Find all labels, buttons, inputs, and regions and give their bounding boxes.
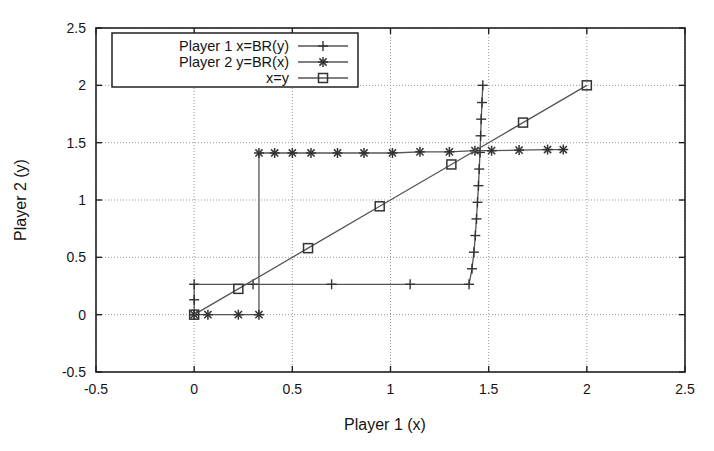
marker-asterisk: [387, 148, 397, 158]
marker-asterisk: [332, 148, 342, 158]
y-tick-label: -0.5: [62, 364, 86, 380]
best-response-plot: -0.500.511.522.5 -0.500.511.522.5 Player…: [0, 0, 714, 451]
x-tick-label: 2.5: [675, 381, 695, 397]
marker-asterisk: [543, 145, 553, 155]
y-tick-label: 1: [78, 192, 86, 208]
x-axis-label: Player 1 (x): [344, 416, 426, 433]
marker-asterisk: [558, 145, 568, 155]
legend-label-0: Player 1 x=BR(y): [179, 38, 289, 54]
x-tick-label: 1.5: [479, 381, 499, 397]
marker-asterisk: [254, 310, 264, 320]
marker-asterisk: [254, 148, 264, 158]
marker-asterisk: [306, 148, 316, 158]
x-tick-label: 0: [190, 381, 198, 397]
x-tick-label: 2: [583, 381, 591, 397]
marker-asterisk: [415, 147, 425, 157]
y-tick-label: 0.5: [67, 249, 87, 265]
y-tick-label: 2: [78, 77, 86, 93]
x-tick-label: 0.5: [283, 381, 303, 397]
marker-asterisk: [203, 310, 213, 320]
marker-asterisk: [359, 148, 369, 158]
legend-label-2: x=y: [266, 70, 290, 86]
legend-label-1: Player 2 y=BR(x): [179, 54, 289, 70]
marker-asterisk: [514, 145, 524, 155]
chart-figure: -0.500.511.522.5 -0.500.511.522.5 Player…: [0, 0, 714, 451]
y-axis-label: Player 2 (y): [12, 159, 29, 241]
y-tick-label: 1.5: [67, 135, 87, 151]
marker-asterisk: [287, 148, 297, 158]
x-tick-label: -0.5: [84, 381, 108, 397]
x-tick-label: 1: [387, 381, 395, 397]
y-tick-label: 0: [78, 307, 86, 323]
marker-asterisk: [318, 57, 328, 67]
marker-asterisk: [270, 148, 280, 158]
marker-asterisk: [444, 147, 454, 157]
marker-asterisk: [233, 310, 243, 320]
y-tick-label: 2.5: [67, 20, 87, 36]
marker-asterisk: [487, 146, 497, 156]
chart-legend[interactable]: Player 1 x=BR(y)Player 2 y=BR(x)x=y: [112, 33, 358, 87]
